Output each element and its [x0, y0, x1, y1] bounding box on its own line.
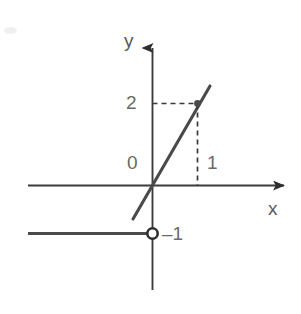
x-axis-label: x: [268, 199, 278, 218]
origin-label: 0: [127, 153, 138, 172]
y-tick-label-2: 2: [126, 93, 137, 112]
open-endpoint-marker: [147, 228, 157, 238]
x-tick-label-1: 1: [207, 153, 218, 172]
figure-root: y x 2 0 1 –1: [0, 0, 301, 314]
coordinate-graph: [0, 0, 301, 314]
y-value-label-negative-one: –1: [162, 224, 183, 243]
y-axis-label: y: [124, 31, 134, 50]
point-1-2-marker: [194, 100, 201, 107]
